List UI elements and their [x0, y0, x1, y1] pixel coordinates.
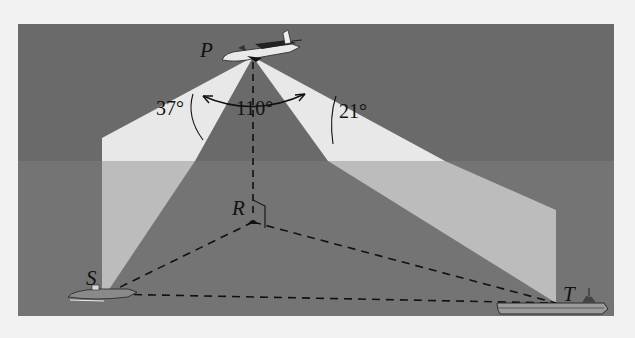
label-R: R — [231, 196, 245, 220]
label-P: P — [199, 38, 213, 62]
label-S: S — [86, 266, 97, 290]
angle-label-110: 110° — [236, 97, 273, 119]
geometry-diagram: P R S T 37° 110° 21° — [0, 0, 635, 338]
angle-label-21: 21° — [339, 100, 367, 122]
angle-label-37: 37° — [156, 97, 184, 119]
label-T: T — [563, 282, 576, 306]
